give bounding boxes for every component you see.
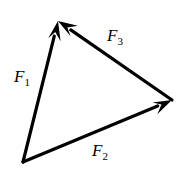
vector-label-f2-subscript: 2 — [103, 150, 109, 162]
vector-label-f2-symbol: F — [92, 141, 102, 160]
force-triangle-figure: F1 F2 F3 — [0, 0, 192, 182]
vector-label-f1-subscript: 1 — [25, 76, 31, 88]
vector-f1-shaft — [23, 36, 54, 162]
vector-label-f3: F3 — [107, 27, 123, 47]
vector-f1 — [23, 21, 61, 162]
vector-label-f3-subscript: 3 — [118, 35, 124, 47]
vector-label-f1: F1 — [14, 68, 30, 88]
vector-label-f2: F2 — [92, 142, 108, 162]
vector-label-f3-symbol: F — [107, 26, 117, 45]
vector-label-f1-symbol: F — [14, 67, 24, 86]
vector-f2-shaft — [23, 106, 158, 162]
